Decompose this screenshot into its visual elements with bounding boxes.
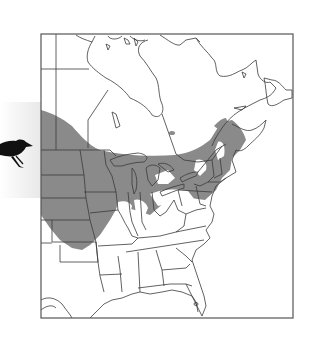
range-map	[40, 33, 294, 319]
range-description: Northern Great Plains, Upper Midwest, Gr…	[0, 0, 1, 1]
map-region-label: Eastern North America	[0, 0, 1, 1]
range-shading	[41, 110, 246, 250]
bird-silhouette-icon	[0, 134, 36, 174]
